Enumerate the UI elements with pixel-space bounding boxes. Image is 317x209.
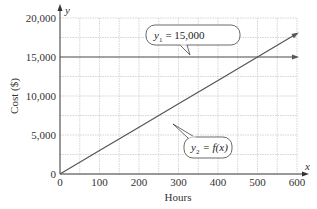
x-axis-title: Hours: [165, 191, 192, 203]
x-tick-label: 500: [249, 176, 266, 188]
x-tick-label: 600: [289, 176, 306, 188]
y-axis-variable: y: [64, 4, 70, 16]
x-tick-label: 400: [210, 176, 227, 188]
x-tick-label: 300: [170, 176, 187, 188]
y-tick-label: 10,000: [26, 90, 57, 102]
y-axis-title: Cost ($): [8, 78, 21, 114]
y-tick-label: 0: [51, 168, 57, 180]
y-tick-label: 15,000: [26, 51, 57, 63]
x-axis-variable: x: [304, 160, 310, 172]
x-tick-label: 100: [91, 176, 108, 188]
callouts: y1= 15,000y2= f(x): [146, 25, 240, 158]
cost-chart: 010020030040050060005,00010,00015,00020,…: [0, 0, 317, 209]
y-tick-label: 20,000: [26, 12, 57, 24]
series-arrow-icon: [292, 55, 299, 60]
y-tick-label: 5,000: [31, 129, 56, 141]
series-line: [60, 34, 297, 174]
x-tick-label: 0: [57, 176, 63, 188]
x-tick-label: 200: [131, 176, 148, 188]
y-axis-arrow-icon: [58, 4, 63, 11]
data-lines: [60, 33, 299, 174]
